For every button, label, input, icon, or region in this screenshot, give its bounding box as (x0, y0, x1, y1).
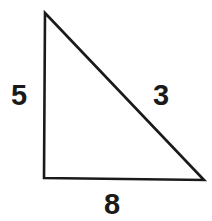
side-label-hypotenuse: 3 (146, 81, 176, 110)
triangle-figure: 5 3 8 (0, 0, 212, 221)
side-label-vertical-leg: 5 (4, 81, 34, 110)
side-label-horizontal-leg: 8 (97, 190, 127, 219)
triangle-outline (44, 13, 204, 180)
